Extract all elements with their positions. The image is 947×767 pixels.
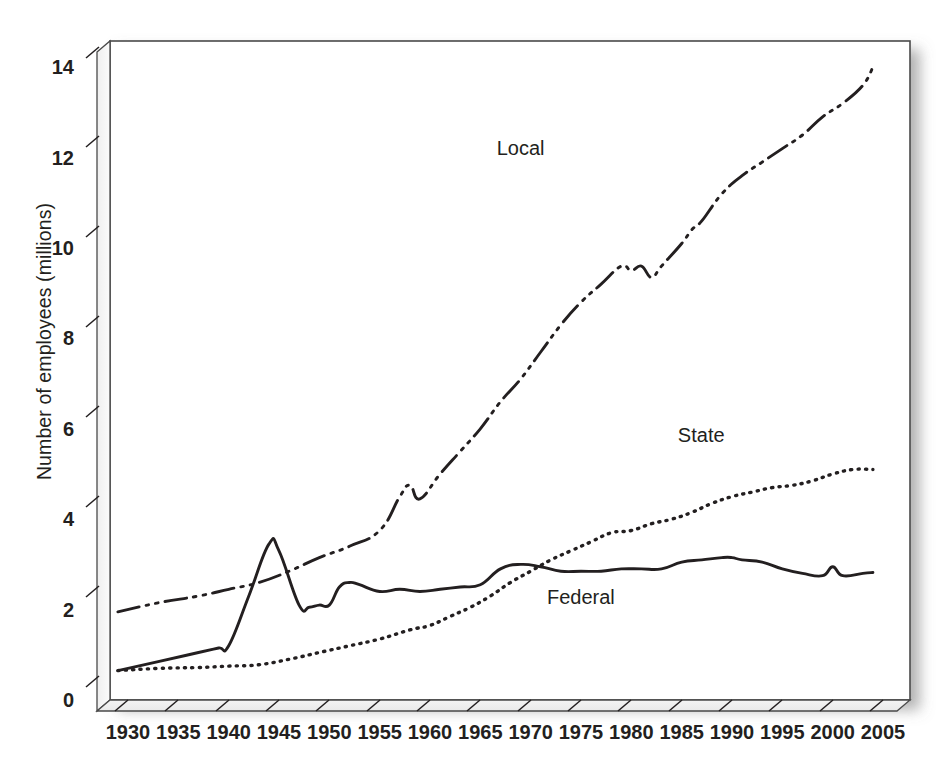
line-chart: Number of employees (millions) — [0, 0, 947, 767]
axis-wall-left — [97, 41, 110, 711]
y-tick-label: 10 — [28, 238, 74, 258]
y-tick-label: 2 — [28, 600, 74, 620]
y-tick-label: 0 — [28, 690, 74, 710]
y-tick-label: 8 — [28, 328, 74, 348]
y-tick-label: 4 — [28, 509, 74, 529]
series-label-federal: Federal — [547, 587, 615, 607]
series-label-local: Local — [497, 138, 545, 158]
chart-canvas — [0, 0, 947, 767]
series-label-state: State — [678, 425, 725, 445]
y-tick-label: 12 — [28, 148, 74, 168]
x-tick-label: 2005 — [853, 722, 913, 742]
y-tick-label: 6 — [28, 419, 74, 439]
y-tick-label: 14 — [28, 57, 74, 77]
